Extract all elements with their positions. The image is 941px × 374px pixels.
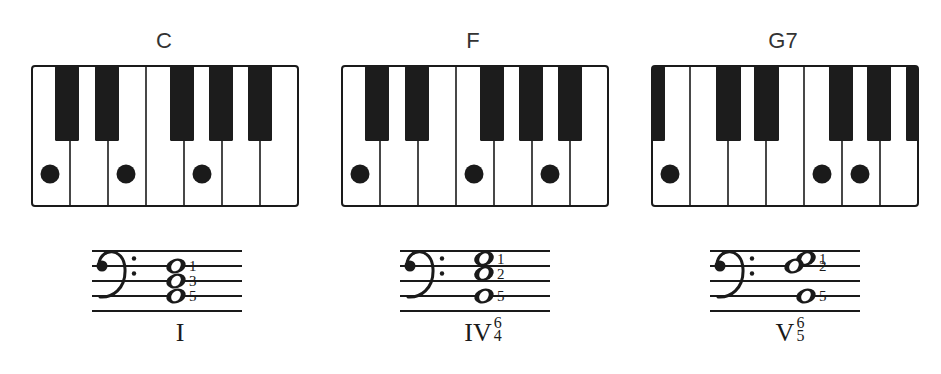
whole-note-icon (164, 286, 187, 306)
pressed-key-dot-icon (41, 165, 60, 184)
pressed-key-dot-icon (117, 165, 136, 184)
black-key (480, 66, 504, 141)
black-key (170, 66, 194, 141)
chord-tone-number: 1 (189, 258, 197, 274)
roman-numeral-g7: V65 (730, 318, 850, 348)
black-key (95, 66, 119, 141)
roman-numeral-text: IV (464, 318, 491, 347)
black-key (716, 66, 741, 141)
whole-note-icon (164, 256, 187, 276)
pressed-key-dot-icon (813, 165, 832, 184)
pressed-key-dot-icon (193, 165, 212, 184)
pressed-key-dot-icon (541, 165, 560, 184)
whole-note-icon (794, 286, 817, 306)
black-key (405, 66, 429, 141)
chord-tone-number: 5 (189, 288, 197, 304)
chord-title-f: F (413, 28, 533, 54)
bass-clef-icon (715, 252, 755, 297)
black-key (365, 66, 389, 141)
black-key (754, 66, 779, 141)
pressed-key-dot-icon (465, 165, 484, 184)
black-key (558, 66, 582, 141)
whole-note-icon (472, 286, 495, 306)
chord-title-g7: G7 (723, 28, 843, 54)
keyboard-f (341, 65, 607, 205)
roman-numeral-text: I (176, 318, 185, 347)
chord-tone-number: 5 (497, 288, 505, 304)
black-key (906, 66, 918, 141)
whole-note-icon (164, 271, 187, 291)
chord-tone-number: 2 (497, 266, 505, 282)
roman-numeral-text: V (776, 318, 795, 347)
staff-g7: 125 (706, 236, 876, 326)
black-key (55, 66, 79, 141)
black-key (519, 66, 543, 141)
black-key (829, 66, 853, 141)
staff-f: 125 (396, 236, 566, 326)
chord-title-c: C (104, 28, 224, 54)
roman-numeral-f: IV64 (423, 318, 543, 348)
keyboard-g7 (651, 65, 917, 205)
chord-tone-number: 3 (189, 273, 197, 289)
figured-bass: 65 (796, 316, 804, 342)
black-key (652, 66, 665, 141)
pressed-key-dot-icon (851, 165, 870, 184)
chord-tone-number: 2 (819, 258, 827, 274)
roman-numeral-c: I (121, 318, 241, 348)
chord-tone-number: 5 (819, 288, 827, 304)
bass-clef-icon (405, 252, 445, 297)
bass-clef-icon (97, 252, 137, 297)
keyboard-c (31, 65, 297, 205)
black-key (867, 66, 891, 141)
figured-bass: 64 (494, 316, 502, 342)
chord-tone-number: 1 (497, 251, 505, 267)
pressed-key-dot-icon (351, 165, 370, 184)
staff-c: 135 (88, 236, 258, 326)
pressed-key-dot-icon (661, 165, 680, 184)
black-key (209, 66, 233, 141)
figure-bottom: 4 (494, 329, 502, 342)
figure-bottom: 5 (796, 329, 804, 342)
black-key (248, 66, 272, 141)
